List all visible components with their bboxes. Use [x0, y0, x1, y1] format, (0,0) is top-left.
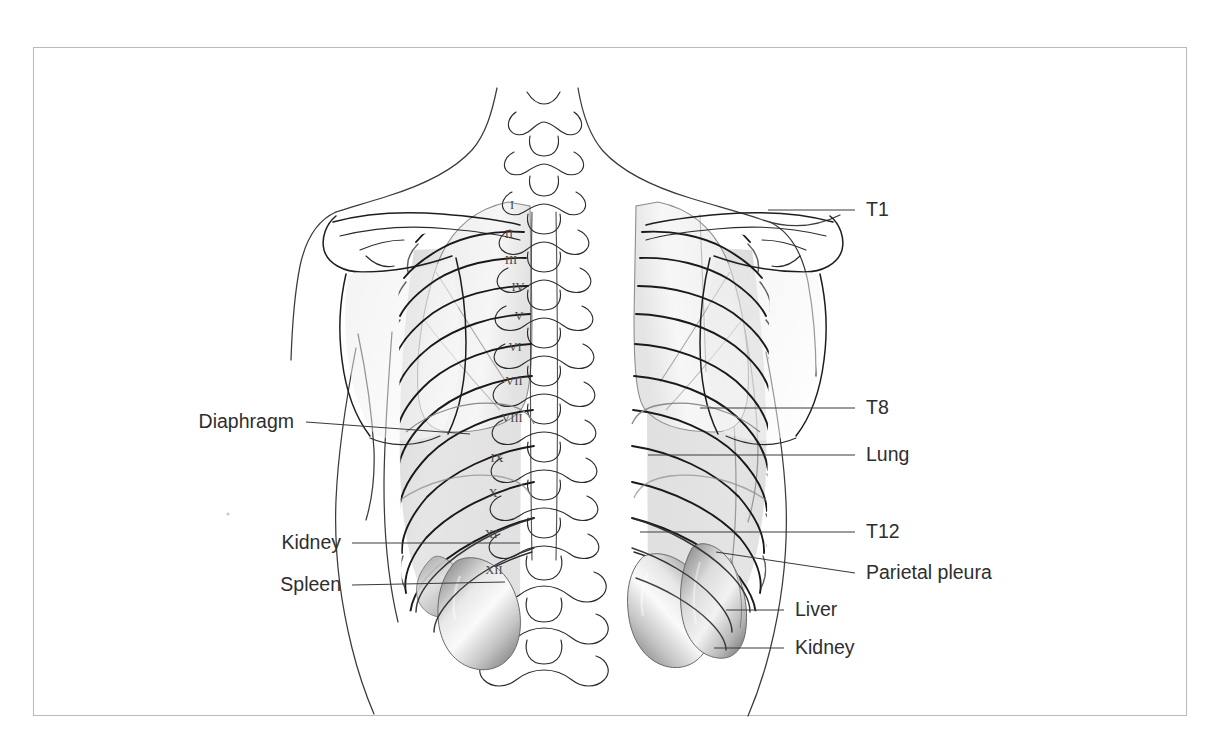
label-diaphragm[interactable]: Diaphragm — [199, 410, 294, 432]
scan-artifact-dot — [226, 512, 229, 515]
rib-numeral: V — [514, 309, 523, 323]
label-kidney-left[interactable]: Kidney — [281, 531, 341, 553]
label-kidney-right[interactable]: Kidney — [795, 636, 855, 658]
rib-numeral: X — [488, 486, 497, 500]
label-t1[interactable]: T1 — [866, 198, 889, 220]
label-liver[interactable]: Liver — [795, 598, 838, 620]
rib-numeral: IV — [511, 280, 524, 294]
label-spleen[interactable]: Spleen — [280, 573, 341, 595]
rib-numeral: III — [505, 253, 518, 267]
rib-numeral: VIII — [501, 411, 523, 425]
label-parietal-pleura[interactable]: Parietal pleura — [866, 561, 992, 583]
rib-numeral: VI — [508, 340, 521, 354]
rib-numeral: XII — [485, 563, 502, 577]
callout-labels-left: DiaphragmKidneySpleen — [199, 410, 342, 595]
callout-labels-right: T1T8LungT12Parietal pleuraLiverKidney — [795, 198, 992, 658]
label-t8[interactable]: T8 — [866, 396, 889, 418]
rib-numeral: II — [505, 227, 513, 241]
anatomy-illustration: IIIIIIIVVVIVIIVIIIIXXXIXII T1T8LungT12Pa… — [0, 0, 1221, 742]
rib-numeral: I — [510, 198, 514, 212]
rib-numeral: VII — [505, 374, 522, 388]
label-lung[interactable]: Lung — [866, 443, 909, 465]
label-t12[interactable]: T12 — [866, 520, 900, 542]
rib-numeral: IX — [490, 451, 503, 465]
rib-numeral: XI — [484, 527, 497, 541]
